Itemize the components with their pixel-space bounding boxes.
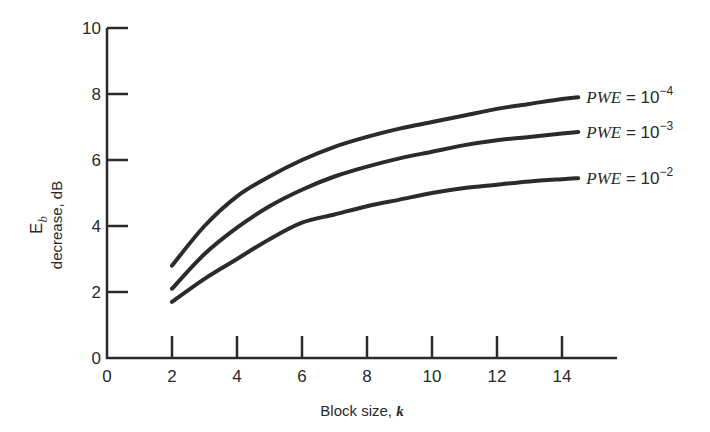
curves [172, 97, 578, 302]
y-axis-title: Eb decrease, dB [27, 181, 65, 269]
y-axis-title-eb: Eb [27, 216, 50, 234]
x-tick-label: 8 [362, 367, 371, 386]
x-tick-label: 0 [102, 367, 111, 386]
chart: 024681002468101214 PWE = 10−4PWE = 10−3P… [0, 0, 710, 432]
axis-lines [107, 28, 617, 358]
y-tick-label: 0 [92, 349, 101, 368]
curve-series-2 [172, 178, 578, 302]
y-axis-title-decrease: decrease, dB [48, 181, 65, 269]
x-tick-label: 14 [553, 367, 572, 386]
y-tick-label: 6 [92, 151, 101, 170]
y-tick-label: 4 [92, 217, 101, 236]
x-tick-label: 10 [423, 367, 442, 386]
x-tick-label: 2 [167, 367, 176, 386]
y-tick-label: 2 [92, 283, 101, 302]
curve-series-1 [172, 132, 578, 289]
y-tick-label: 8 [92, 85, 101, 104]
x-axis-title-text: Block size, [320, 402, 396, 419]
x-tick-label: 12 [488, 367, 507, 386]
x-axis-title: Block size, k [320, 402, 404, 419]
curve-label-2: PWE = 10−2 [585, 165, 673, 188]
curve-labels: PWE = 10−4PWE = 10−3PWE = 10−2 [585, 84, 673, 188]
axes: 024681002468101214 [82, 19, 617, 386]
x-tick-label: 6 [297, 367, 306, 386]
y-tick-label: 10 [82, 19, 101, 38]
curve-label-1: PWE = 10−3 [585, 119, 673, 142]
x-tick-label: 4 [232, 367, 241, 386]
curve-label-0: PWE = 10−4 [585, 84, 673, 107]
